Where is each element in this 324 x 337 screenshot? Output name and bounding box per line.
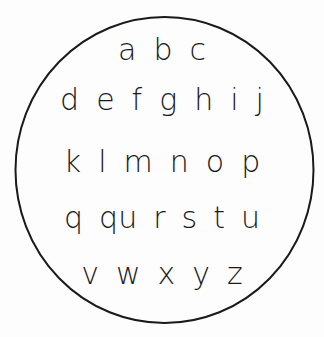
letter: k [64,147,81,177]
letter: x [158,259,176,289]
letter: w [116,259,141,289]
letter: r [153,203,165,233]
letter: h [194,85,213,115]
letter: g [159,85,177,115]
letter: z [227,259,243,289]
letter: j [256,85,264,115]
letter-row: abc [0,35,324,65]
letter: p [241,147,260,177]
letter: y [192,259,210,289]
letter: a [118,35,136,65]
letter: e [96,85,114,115]
letter: t [213,203,225,233]
letter-row: klmnop [0,147,324,177]
alphabet-card: abcdefghijklmnopqqurstuvwxyz [0,0,324,337]
letter-row: defghij [0,85,324,115]
letter: m [124,147,153,177]
letter: d [60,85,79,115]
letter: i [230,85,238,115]
letter: b [153,35,172,65]
letter: o [206,147,224,177]
letter: qu [99,203,137,233]
letter: n [170,147,189,177]
letter: c [189,35,206,65]
letter-row: vwxyz [0,259,324,289]
letter: q [64,203,83,233]
letter: u [241,203,260,233]
letter-row: qqurstu [0,203,324,233]
letter: f [132,85,143,115]
letter: v [81,259,99,289]
letter: s [182,203,198,233]
letter: l [98,147,106,177]
